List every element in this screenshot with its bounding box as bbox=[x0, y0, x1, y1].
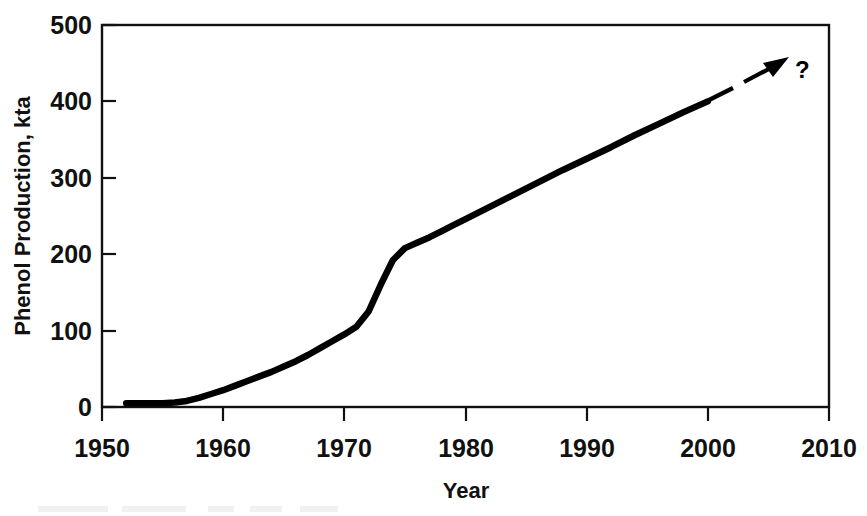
question-mark-annotation: ? bbox=[795, 56, 810, 83]
x-tick-label-1960: 1960 bbox=[195, 434, 251, 462]
x-tick-label-1980: 1980 bbox=[438, 434, 494, 462]
x-tick-label-2000: 2000 bbox=[680, 434, 736, 462]
y-tick-label-0: 0 bbox=[78, 393, 92, 421]
x-tick-label-2010: 2010 bbox=[801, 434, 857, 462]
y-axis-ticks bbox=[102, 25, 116, 407]
y-tick-label-100: 100 bbox=[50, 317, 92, 345]
y-axis-tick-labels: 500 400 300 200 100 0 bbox=[50, 11, 92, 421]
chart-figure: 500 400 300 200 100 0 1950 1960 1970 198… bbox=[0, 0, 867, 516]
x-axis-tick-labels: 1950 1960 1970 1980 1990 2000 2010 bbox=[74, 434, 857, 462]
arrow-head-icon bbox=[763, 57, 789, 77]
x-tick-label-1950: 1950 bbox=[74, 434, 130, 462]
y-tick-label-400: 400 bbox=[50, 87, 92, 115]
x-tick-label-1970: 1970 bbox=[316, 434, 372, 462]
y-tick-label-500: 500 bbox=[50, 11, 92, 39]
extrapolation-dash-1 bbox=[709, 88, 733, 100]
phenol-production-line-chart: 500 400 300 200 100 0 1950 1960 1970 198… bbox=[0, 0, 867, 516]
y-tick-label-200: 200 bbox=[50, 240, 92, 268]
cropped-caption-artifact bbox=[38, 506, 338, 512]
y-tick-label-300: 300 bbox=[50, 164, 92, 192]
data-series-phenol-production bbox=[126, 101, 708, 403]
x-axis-ticks bbox=[102, 407, 829, 421]
x-axis-title: Year bbox=[443, 478, 490, 503]
extrapolation-arrow bbox=[709, 57, 789, 100]
y-axis-title: Phenol Production, kta bbox=[10, 95, 35, 335]
x-tick-label-1990: 1990 bbox=[559, 434, 615, 462]
